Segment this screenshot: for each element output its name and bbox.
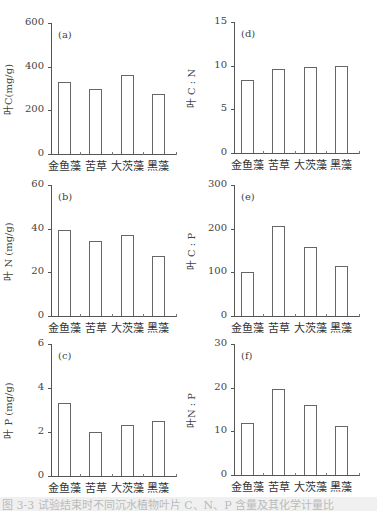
- x-tick: [80, 314, 81, 317]
- y-tick-label: 10: [197, 424, 227, 435]
- y-tick-label: 0: [14, 147, 44, 158]
- plot-area: 0204060金鱼藻苦草大茨藻黑藻(b)叶 N (mg/g): [51, 185, 177, 317]
- x-tick-label: 黑藻: [323, 319, 359, 335]
- x-tick-label: 黑藻: [323, 156, 359, 172]
- x-tick: [295, 314, 296, 317]
- x-tick: [143, 152, 144, 155]
- y-tick: [48, 23, 52, 24]
- y-tick: [48, 432, 52, 433]
- plot-area: 0100200300金鱼藻苦草大茨藻黑藻(e)叶 C : P: [234, 185, 360, 317]
- bar-黑藻: [152, 256, 165, 316]
- x-tick: [359, 473, 360, 476]
- bar-苦草: [89, 241, 102, 316]
- bar-苦草: [272, 69, 285, 153]
- x-tick: [326, 151, 327, 154]
- x-tick: [295, 473, 296, 476]
- x-tick: [80, 474, 81, 477]
- y-tick-label: 30: [197, 337, 227, 348]
- y-tick: [231, 272, 235, 273]
- y-tick: [48, 110, 52, 111]
- bar-黑藻: [152, 94, 165, 154]
- y-tick: [48, 476, 52, 477]
- y-tick: [48, 154, 52, 155]
- y-axis-label: 叶 P (mg/g): [0, 366, 15, 456]
- x-tick: [326, 473, 327, 476]
- y-tick-label: 5: [197, 102, 227, 113]
- bar-苦草: [89, 432, 102, 476]
- y-tick: [231, 22, 235, 23]
- panel-label: (c): [58, 350, 71, 361]
- y-tick-label: 40: [14, 222, 44, 233]
- x-tick: [295, 151, 296, 154]
- bar-大茨藻: [304, 247, 317, 316]
- bar-苦草: [272, 226, 285, 316]
- bar-金鱼藻: [58, 230, 71, 316]
- y-tick: [231, 109, 235, 110]
- y-tick-label: 60: [14, 178, 44, 189]
- panel-label: (f): [241, 350, 253, 361]
- y-tick: [231, 229, 235, 230]
- x-tick-label: 黑藻: [140, 479, 176, 495]
- y-tick: [231, 185, 235, 186]
- y-tick: [48, 316, 52, 317]
- x-tick: [359, 314, 360, 317]
- x-tick: [176, 152, 177, 155]
- bar-金鱼藻: [58, 82, 71, 154]
- y-tick: [48, 344, 52, 345]
- bar-苦草: [89, 89, 102, 155]
- x-tick: [143, 314, 144, 317]
- y-tick-label: 0: [197, 146, 227, 157]
- bar-金鱼藻: [241, 423, 254, 475]
- bar-大茨藻: [121, 75, 134, 154]
- y-tick-label: 200: [14, 103, 44, 114]
- bar-大茨藻: [121, 235, 134, 316]
- bar-金鱼藻: [241, 80, 254, 153]
- x-tick: [326, 314, 327, 317]
- y-tick-label: 20: [14, 265, 44, 276]
- x-tick: [176, 474, 177, 477]
- panel-label: (a): [58, 29, 72, 40]
- x-tick: [143, 474, 144, 477]
- y-tick: [48, 229, 52, 230]
- bar-黑藻: [335, 426, 348, 475]
- y-tick: [231, 475, 235, 476]
- plot-area: 0102030金鱼藻苦草大茨藻黑藻(f)叶N : P: [234, 344, 360, 476]
- y-tick-label: 400: [14, 60, 44, 71]
- bar-大茨藻: [304, 405, 317, 475]
- y-tick-label: 15: [197, 15, 227, 26]
- y-axis-label: 叶 C : P: [183, 206, 198, 296]
- plot-area: 051015金鱼藻苦草大茨藻黑藻(d)叶 C : N: [234, 22, 360, 154]
- y-axis-label: 叶 N (mg/g): [0, 206, 15, 296]
- bar-大茨藻: [304, 67, 317, 153]
- y-tick-label: 0: [14, 309, 44, 320]
- x-tick: [112, 474, 113, 477]
- y-tick: [231, 66, 235, 67]
- y-axis-label: 叶N : P: [183, 365, 198, 455]
- y-axis-label: 叶C(mg/g): [0, 44, 15, 134]
- panel-label: (b): [58, 191, 72, 202]
- y-tick-label: 0: [197, 468, 227, 479]
- y-tick: [48, 272, 52, 273]
- y-tick: [231, 153, 235, 154]
- panel-label: (d): [241, 28, 255, 39]
- x-tick-label: 黑藻: [140, 319, 176, 335]
- y-tick-label: 0: [197, 309, 227, 320]
- figure-caption: 图 3-3 试验结束时不同沉水植物叶片 C、N、P 含量及其化学计量比: [0, 497, 377, 511]
- x-tick: [176, 314, 177, 317]
- x-tick: [112, 152, 113, 155]
- y-tick-label: 2: [14, 425, 44, 436]
- y-tick-label: 300: [197, 178, 227, 189]
- y-tick: [231, 388, 235, 389]
- bar-黑藻: [335, 266, 348, 316]
- y-tick: [48, 388, 52, 389]
- bar-黑藻: [335, 66, 348, 153]
- x-tick: [359, 151, 360, 154]
- bar-黑藻: [152, 421, 165, 476]
- y-tick-label: 0: [14, 469, 44, 480]
- x-tick: [263, 151, 264, 154]
- y-tick-label: 100: [197, 265, 227, 276]
- y-tick-label: 200: [197, 222, 227, 233]
- y-tick-label: 600: [14, 16, 44, 27]
- x-tick: [80, 152, 81, 155]
- y-tick-label: 4: [14, 381, 44, 392]
